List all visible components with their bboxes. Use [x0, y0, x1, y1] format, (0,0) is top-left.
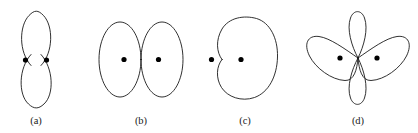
figure-a-nucleus-dot-right [44, 57, 49, 62]
figure-b-group: (b) [99, 22, 183, 127]
figure-c-label: (c) [239, 115, 251, 127]
figure-a-upper-lobe [22, 11, 51, 65]
figure-c-nucleus-dot-left [209, 57, 214, 62]
figure-c-nucleus-dot-right [238, 57, 243, 62]
figure-c-group: (c) [209, 17, 278, 127]
figure-d-label: (d) [352, 115, 365, 127]
figure-b-nucleus-dot-left [121, 57, 126, 62]
figure-a-nucleus-dot-left [23, 57, 28, 62]
figure-d-petal-top [349, 12, 366, 58]
figure-b-right-oval [141, 22, 183, 97]
figure-b-left-oval [99, 22, 141, 97]
figure-d-petal-left [307, 36, 358, 80]
figure-c-limacon-outline [217, 17, 277, 99]
figure-a-group: (a) [21, 11, 51, 127]
figure-a-label: (a) [30, 115, 42, 127]
figure-d-nucleus-dot-right [374, 55, 379, 60]
figure-canvas: (a) (b) (c) [0, 0, 418, 133]
figure-b-label: (b) [135, 115, 148, 127]
figure-d-petal-right [358, 36, 409, 80]
figure-d-nucleus-dot-left [337, 55, 342, 60]
figure-panel: (a) (b) (c) [0, 0, 418, 133]
figure-b-nucleus-dot-right [156, 57, 161, 62]
figure-d-group: (d) [307, 12, 410, 127]
